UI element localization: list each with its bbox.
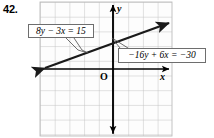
coordinate-graph: y x O (0, 0, 214, 138)
equation-label-2-text: −16y + 6x = −30 (122, 49, 202, 62)
equation-label-1: 8y − 3x = 15 (28, 24, 94, 38)
x-axis-label: x (159, 71, 165, 82)
origin-label: O (100, 71, 108, 82)
equation-label-2: −16y + 6x = −30 (118, 48, 206, 63)
y-axis-label: y (116, 3, 122, 14)
equation-label-1-text: 8y − 3x = 15 (32, 25, 90, 38)
figure-panel: 42. y x O (0, 0, 214, 138)
